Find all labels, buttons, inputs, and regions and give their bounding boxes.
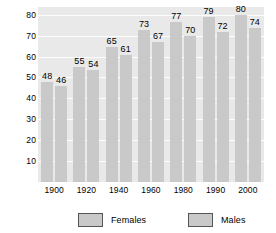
bar-males-1900 bbox=[55, 86, 67, 182]
bar-group: 7972 bbox=[203, 7, 229, 182]
bar-females-1980 bbox=[170, 22, 182, 182]
data-label: 74 bbox=[246, 18, 264, 27]
x-axis-tick-label: 1990 bbox=[199, 185, 231, 196]
bar-group: 5554 bbox=[73, 7, 99, 182]
legend-entry-males[interactable]: Males bbox=[188, 211, 246, 229]
data-label: 73 bbox=[136, 20, 152, 29]
legend-swatch-males bbox=[188, 213, 213, 227]
bar-females-1900 bbox=[41, 82, 53, 182]
data-label: 61 bbox=[117, 45, 135, 54]
y-axis-tick-label: 20 bbox=[14, 136, 36, 145]
data-label: 72 bbox=[214, 22, 232, 31]
bar-group: 7770 bbox=[170, 7, 196, 182]
bar-females-1990 bbox=[203, 17, 215, 182]
y-axis-tick-label: 80 bbox=[14, 11, 36, 20]
data-label: 77 bbox=[168, 12, 184, 21]
bar-females-2000 bbox=[235, 15, 247, 182]
x-axis-tick-label: 1960 bbox=[135, 185, 167, 196]
y-axis-tick-label: 40 bbox=[14, 94, 36, 103]
y-axis-tick-label: 10 bbox=[14, 157, 36, 166]
bar-group: 4846 bbox=[41, 7, 67, 182]
bar-males-1960 bbox=[152, 42, 164, 182]
bar-group: 7367 bbox=[138, 7, 164, 182]
legend-label: Females bbox=[111, 215, 146, 225]
bar-females-1920 bbox=[73, 67, 85, 182]
bar-males-1980 bbox=[184, 36, 196, 182]
x-axis-tick-label: 1980 bbox=[167, 185, 199, 196]
data-label: 67 bbox=[149, 32, 167, 41]
bar-females-1960 bbox=[138, 30, 150, 182]
y-axis-tick-label: 70 bbox=[14, 32, 36, 41]
y-axis-tick-label: 50 bbox=[14, 73, 36, 82]
y-axis-tick-labels: 1020304050607080 bbox=[14, 0, 36, 233]
legend-label: Males bbox=[221, 215, 246, 225]
bar-females-1940 bbox=[106, 47, 118, 182]
chart-legend: FemalesMales bbox=[0, 211, 276, 231]
bar-group: 8074 bbox=[235, 7, 261, 182]
data-label: 46 bbox=[52, 76, 70, 85]
data-label: 79 bbox=[201, 7, 217, 16]
bar-males-1940 bbox=[120, 55, 132, 182]
plot-area: 4846555465617367777079728074 bbox=[38, 7, 264, 182]
bar-group: 6561 bbox=[106, 7, 132, 182]
x-axis-tick-label: 1940 bbox=[103, 185, 135, 196]
y-axis-tick-label: 60 bbox=[14, 53, 36, 62]
data-label: 54 bbox=[84, 60, 102, 69]
data-label: 80 bbox=[233, 5, 249, 14]
legend-swatch-females bbox=[78, 213, 103, 227]
bar-males-1920 bbox=[87, 70, 99, 183]
bar-chart-figure: Age 1020304050607080 4846555465617367777… bbox=[0, 0, 276, 233]
bar-males-2000 bbox=[249, 28, 261, 182]
x-axis-tick-labels: 1900192019401960198019902000 bbox=[38, 185, 264, 199]
data-label: 70 bbox=[181, 26, 199, 35]
x-axis-tick-label: 1920 bbox=[70, 185, 102, 196]
x-axis-tick-label: 1900 bbox=[38, 185, 70, 196]
y-axis-tick-label: 30 bbox=[14, 115, 36, 124]
bar-males-1990 bbox=[217, 32, 229, 182]
x-axis-tick-label: 2000 bbox=[232, 185, 264, 196]
legend-entry-females[interactable]: Females bbox=[78, 211, 146, 229]
